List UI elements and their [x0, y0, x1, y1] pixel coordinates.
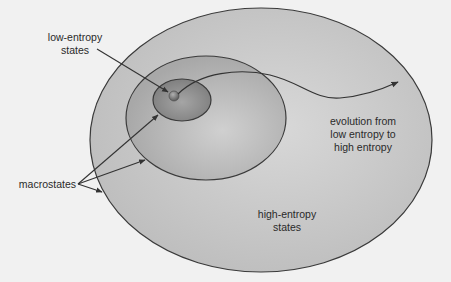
high-entropy-line1: high-entropy [254, 208, 320, 221]
evolution-line1: evolution from [325, 115, 401, 128]
middle-ellipse [126, 56, 286, 180]
macrostates-label: macrostates [14, 178, 76, 191]
inner-ellipse-low-entropy [153, 79, 211, 121]
low-entropy-line2: states [44, 44, 106, 57]
evolution-label: evolution from low entropy to high entro… [325, 115, 401, 154]
entropy-diagram: low-entropy states macrostates evolution… [0, 0, 451, 282]
evolution-line2: low entropy to [325, 128, 401, 141]
low-entropy-ball [169, 91, 179, 101]
evolution-line3: high entropy [325, 141, 401, 154]
high-entropy-states-label: high-entropy states [254, 208, 320, 234]
macrostates-text: macrostates [19, 178, 76, 190]
low-entropy-states-label: low-entropy states [44, 31, 106, 57]
macrostates-arrow-outer [78, 184, 102, 192]
low-entropy-line1: low-entropy [44, 31, 106, 44]
high-entropy-line2: states [254, 221, 320, 234]
